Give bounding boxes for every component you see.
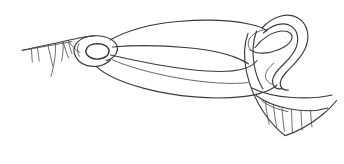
drawing-canvas: Hand-drawn line sketch Pen line drawing … xyxy=(0,0,344,164)
line-drawing-figure: Hand-drawn line sketch Pen line drawing … xyxy=(0,0,344,164)
canvas-background xyxy=(0,0,344,164)
